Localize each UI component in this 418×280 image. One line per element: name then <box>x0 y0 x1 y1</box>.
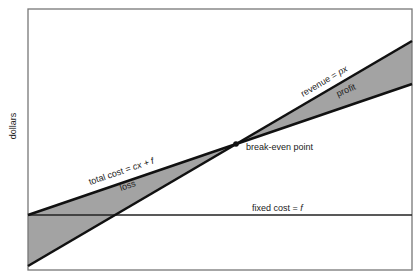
break-even-marker <box>233 141 239 147</box>
revenue-line <box>28 41 412 266</box>
fixed-cost-label: fixed cost = f <box>252 203 304 213</box>
total-cost-line <box>28 84 412 215</box>
y-axis-label: dollars <box>8 112 18 139</box>
break-even-chart: dollars revenue = px profit break-even p… <box>0 0 418 280</box>
fixed-cost-label-expr: f <box>300 203 304 213</box>
total-cost-label-expr: cx + f <box>131 155 156 172</box>
fixed-cost-label-prefix: fixed cost = <box>252 203 300 213</box>
break-even-label: break-even point <box>246 142 314 152</box>
